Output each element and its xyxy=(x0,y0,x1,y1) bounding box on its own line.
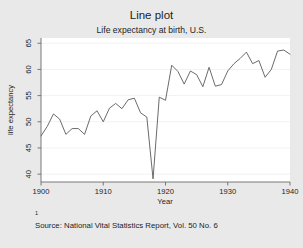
chart-subtitle: Life expectancy at birth, U.S. xyxy=(97,25,207,35)
plot-area-background xyxy=(41,38,290,182)
footnote-marker: 1 xyxy=(35,210,38,216)
y-tick-label: 60 xyxy=(24,65,33,73)
y-tick-label: 65 xyxy=(24,39,33,47)
y-tick-label: 55 xyxy=(24,91,33,99)
x-axis-label: Year xyxy=(157,197,173,206)
line-chart: Line plot Life expectancy at birth, U.S.… xyxy=(0,0,303,248)
y-axis-label: life expectancy xyxy=(6,85,15,135)
y-tick-label: 50 xyxy=(24,118,33,126)
x-tick-label: 1930 xyxy=(219,187,236,196)
x-tick-label: 1920 xyxy=(157,187,174,196)
x-tick-label: 1940 xyxy=(282,187,299,196)
source-note: Source: National Vital Statistics Report… xyxy=(35,221,218,230)
figure-container: Line plot Life expectancy at birth, U.S.… xyxy=(0,0,303,248)
y-tick-label: 40 xyxy=(24,170,33,178)
y-tick-label: 45 xyxy=(24,144,33,152)
x-tick-label: 1900 xyxy=(33,187,50,196)
chart-title: Line plot xyxy=(130,9,174,21)
x-tick-label: 1910 xyxy=(95,187,112,196)
